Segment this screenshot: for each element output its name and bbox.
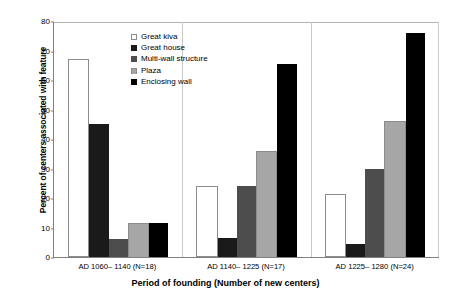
x-axis-tick-label: AD 1140– 1225 (N=17) [182,262,311,271]
bar [196,186,217,257]
y-axis-tick-label: 60 [41,77,50,85]
legend-item: Enclosing wall [131,78,208,86]
y-axis-tick-label: 70 [41,48,50,56]
plot-area: 01020304050607080 [53,22,439,258]
x-axis-tick-label: AD 1225– 1280 (N=24) [310,262,439,271]
bar [128,223,149,257]
legend-swatch-icon [131,34,137,40]
bar [406,33,425,257]
bar [365,169,384,258]
bar [384,121,405,257]
y-axis-tick-mark [51,258,54,259]
bar-chart: Percent of centers associated with featu… [0,0,451,298]
group-separator [311,22,312,257]
legend-label: Multi-wall structure [141,55,208,63]
legend-item: Great house [131,44,208,52]
chart-legend: Great kivaGreat houseMulti-wall structur… [131,33,208,86]
legend-swatch-icon [131,79,137,85]
y-axis-tick-label: 80 [41,18,50,26]
legend-item: Great kiva [131,33,208,41]
x-axis-title: Period of founding (Number of new center… [0,278,451,288]
bar [256,151,277,257]
legend-swatch-icon [131,68,137,74]
legend-label: Great kiva [141,33,177,41]
y-axis-title: Percent of centers associated with featu… [38,5,48,255]
y-axis-tick-label: 10 [41,225,50,233]
bar [109,239,128,257]
bar [218,238,237,257]
legend-swatch-icon [131,45,137,51]
bar [68,59,89,257]
bars-container [325,22,425,257]
x-axis-tick-label: AD 1060– 1140 (N=18) [53,262,182,271]
legend-label: Enclosing wall [141,78,192,86]
bar [277,64,296,257]
bar [89,124,108,257]
bars-container [196,22,296,257]
y-axis-tick-label: 0 [46,254,50,262]
legend-item: Plaza [131,67,208,75]
bar-group [311,22,439,257]
bar-groups [54,22,439,257]
y-axis-tick-label: 50 [41,107,50,115]
y-axis-tick-label: 20 [41,195,50,203]
bar [237,186,256,257]
legend-swatch-icon [131,56,137,62]
y-axis-tick-label: 40 [41,136,50,144]
bar [346,244,365,257]
bar [149,223,168,257]
bar [325,194,346,257]
legend-label: Great house [141,44,185,52]
legend-item: Multi-wall structure [131,55,208,63]
legend-label: Plaza [141,67,161,75]
y-axis-tick-label: 30 [41,166,50,174]
x-axis-tick-labels: AD 1060– 1140 (N=18)AD 1140– 1225 (N=17)… [53,262,439,271]
